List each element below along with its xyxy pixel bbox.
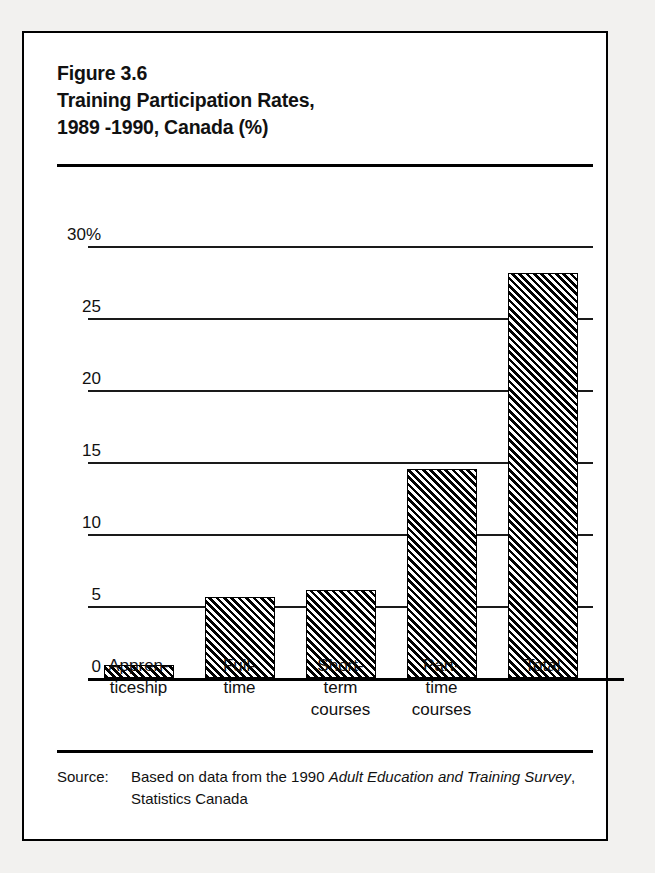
x-axis-label-3: Part-timecourses — [391, 655, 492, 721]
x-axis-label-line: Short- — [290, 655, 391, 677]
source-text-1: Based on data from the 1990 — [131, 768, 329, 785]
x-axis-label-line: Full- — [189, 655, 290, 677]
source-note: Source: Based on data from the 1990 Adul… — [57, 766, 587, 810]
bar-parttimecourses — [407, 469, 477, 678]
bars-layer — [57, 183, 593, 678]
x-axis-label-line: time — [189, 677, 290, 699]
bar-total — [508, 273, 578, 678]
x-axis-labels: Appren-ticeshipFull-timeShort-termcourse… — [57, 655, 593, 745]
x-axis-label-line: courses — [290, 699, 391, 721]
x-axis-label-line: courses — [391, 699, 492, 721]
x-axis-label-0: Appren-ticeship — [88, 655, 189, 699]
x-axis-label-line: Appren- — [88, 655, 189, 677]
bar-chart: 051015202530% Appren-ticeshipFull-timeSh… — [24, 33, 610, 843]
x-axis-label-1: Full-time — [189, 655, 290, 699]
x-axis-label-line: Total — [492, 655, 593, 677]
plot-area: 051015202530% — [57, 183, 593, 653]
figure-frame: Figure 3.6 Training Participation Rates,… — [22, 31, 608, 841]
source-italic-title: Adult Education and Training Survey — [329, 768, 571, 785]
x-axis-label-line: ticeship — [88, 677, 189, 699]
x-axis-label-line: term — [290, 677, 391, 699]
x-axis-label-2: Short-termcourses — [290, 655, 391, 721]
x-axis-label-4: Total — [492, 655, 593, 677]
x-axis-label-line: Part- — [391, 655, 492, 677]
source-divider-rule — [57, 750, 593, 753]
x-axis-label-line: time — [391, 677, 492, 699]
source-body: Based on data from the 1990 Adult Educat… — [131, 766, 587, 810]
source-label: Source: — [57, 766, 131, 810]
